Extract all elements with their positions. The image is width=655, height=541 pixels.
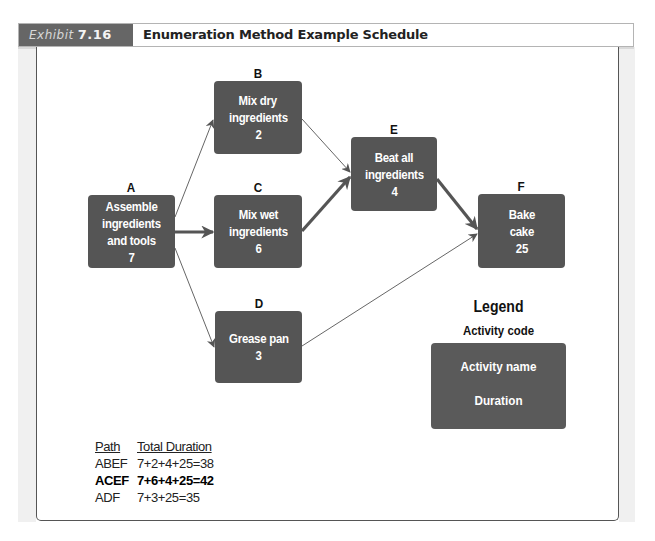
node-c-name-line1: Mix wet: [238, 206, 277, 223]
node-d-code: D: [250, 296, 268, 311]
legend-activity-code: Activity code: [439, 323, 558, 338]
node-a: Assemble ingredients and tools 7: [88, 195, 175, 268]
critical-path-row: ACEF7+6+4+25=42: [95, 472, 214, 489]
path-total: 7+6+4+25=42: [137, 472, 214, 489]
legend-title: Legend: [439, 298, 558, 316]
path-name: ADF: [95, 489, 137, 506]
duration-column-header: Total Duration: [137, 438, 212, 455]
node-b-name-line1: Mix dry: [239, 92, 277, 109]
arrow-e-f: [437, 179, 477, 229]
node-c: Mix wet ingredients 6: [214, 195, 302, 268]
paths-table: PathTotal Duration ABEF7+2+4+25=38 ACEF7…: [95, 438, 214, 506]
path-row: ABEF7+2+4+25=38: [95, 455, 214, 472]
node-e-duration: 4: [391, 183, 397, 200]
node-b-name-line2: ingredients: [229, 109, 288, 126]
node-f-name-line2: cake: [509, 223, 533, 240]
path-column-header: Path: [95, 438, 137, 455]
path-name: ABEF: [95, 455, 137, 472]
node-f-name-line1: Bake: [508, 206, 534, 223]
paths-table-header: PathTotal Duration: [95, 438, 214, 455]
arrow-a-d: [175, 248, 214, 347]
path-total: 7+3+25=35: [137, 489, 200, 506]
arrow-c-e: [302, 177, 350, 231]
node-a-name-line3: and tools: [107, 232, 155, 249]
legend-box: Activity name Duration: [431, 343, 566, 429]
path-row: ADF7+3+25=35: [95, 489, 214, 506]
node-a-code: A: [122, 180, 140, 195]
node-c-duration: 6: [255, 240, 261, 257]
legend-activity-name: Activity name: [438, 359, 560, 374]
node-f-code: F: [512, 179, 530, 194]
node-d-name-line1: Grease pan: [229, 330, 289, 347]
arrow-a-b: [175, 120, 213, 217]
node-e-code: E: [385, 122, 403, 137]
node-c-name-line2: ingredients: [229, 223, 288, 240]
node-c-code: C: [249, 180, 267, 195]
node-b: Mix dry ingredients 2: [214, 81, 302, 154]
node-d-duration: 3: [255, 347, 261, 364]
node-f-duration: 25: [515, 240, 527, 257]
arrow-b-e: [302, 119, 350, 172]
path-total: 7+2+4+25=38: [137, 455, 214, 472]
node-b-code: B: [249, 66, 267, 81]
node-d: Grease pan 3: [215, 311, 302, 383]
node-b-duration: 2: [255, 126, 261, 143]
path-name: ACEF: [95, 472, 137, 489]
node-e: Beat all ingredients 4: [351, 137, 437, 211]
node-f: Bake cake 25: [478, 194, 565, 268]
node-e-name-line2: ingredients: [365, 166, 424, 183]
node-a-duration: 7: [128, 249, 134, 266]
legend-duration: Duration: [438, 393, 560, 408]
node-e-name-line1: Beat all: [375, 149, 414, 166]
node-a-name-line1: Assemble: [106, 198, 158, 215]
node-a-name-line2: ingredients: [102, 215, 161, 232]
